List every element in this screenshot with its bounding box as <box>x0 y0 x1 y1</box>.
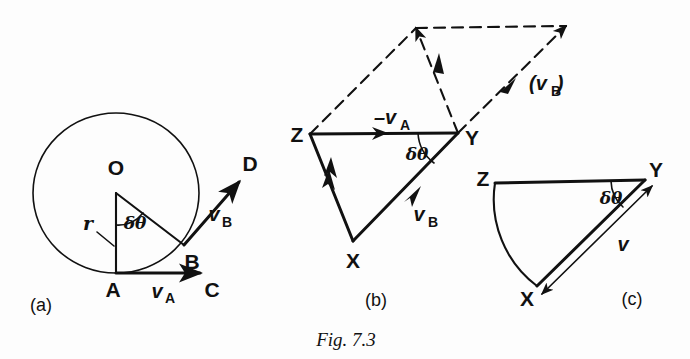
figure-canvas: O A B C D r δθ v A v B (a) <box>0 0 690 359</box>
vector-label-vB-paren-suffix: ) <box>555 72 564 94</box>
panel-label-b: (b) <box>365 290 387 310</box>
dashed-arrow-vB-parenthesised <box>458 26 566 133</box>
triangle-side-ZX <box>310 134 353 241</box>
figure-container: O A B C D r δθ v A v B (a) <box>0 0 690 359</box>
point-label-Z-c: Z <box>477 167 490 190</box>
vector-label-vA-subscript: A <box>165 290 175 306</box>
point-label-X-b: X <box>346 249 360 272</box>
point-label-Y-c: Y <box>649 158 663 181</box>
panel-label-a: (a) <box>30 295 52 315</box>
vector-label-vB-b-subscript: B <box>428 214 438 230</box>
point-label-B: B <box>184 250 199 273</box>
point-label-Z-b: Z <box>291 123 304 146</box>
radius-leader-line <box>97 232 114 246</box>
vector-label-vB-symbol: v <box>208 203 221 225</box>
point-label-A: A <box>105 278 120 301</box>
vector-label-vB-paren-symbol: (v <box>529 72 549 94</box>
radius-label-r: r <box>83 212 95 234</box>
vector-label-vB-b: v B <box>413 203 438 229</box>
figure-caption: Fig. 7.3 <box>315 329 376 350</box>
vector-label-vB-parenthesised: (v B ) <box>529 72 564 98</box>
point-label-C: C <box>204 278 219 301</box>
vector-label-minus-vA-subscript: A <box>400 117 410 133</box>
panel-b: Z X Y δθ –v A v B (v B ) (b) <box>291 26 566 310</box>
panel-a: O A B C D r δθ v A v B (a) <box>30 113 258 315</box>
panel-label-c: (c) <box>622 289 643 309</box>
chord-XY-c <box>537 180 645 286</box>
point-label-X-c: X <box>520 287 534 310</box>
arc-ZX-c <box>494 183 537 286</box>
point-label-Y-b: Y <box>465 126 479 149</box>
point-label-O: O <box>108 156 124 179</box>
vector-label-vA-symbol: v <box>151 280 164 302</box>
panel-c: Z X Y δθ v (c) <box>477 158 663 310</box>
vector-label-minus-vA-symbol: –v <box>374 106 398 128</box>
dashed-arrow-upward <box>416 28 458 133</box>
vector-label-vB-b-symbol: v <box>413 203 426 225</box>
velocity-change-arrow-v <box>542 186 652 294</box>
dashed-diagonal-midarrow <box>500 78 516 94</box>
point-label-D: D <box>242 152 257 175</box>
vector-label-vB-a: v B <box>208 203 232 229</box>
side-ZY-c <box>495 180 645 183</box>
dashed-top-edge <box>416 26 566 28</box>
vector-label-vB-subscript: B <box>222 214 232 230</box>
dashed-upward-midarrow <box>433 53 444 74</box>
vector-label-v-c: v <box>617 233 630 255</box>
vector-label-vA: v A <box>151 280 175 305</box>
vector-label-minus-vA: –v A <box>374 106 410 132</box>
angle-label-delta-theta-a: δθ <box>123 213 147 233</box>
angle-label-delta-theta-b: δθ <box>405 144 429 164</box>
angle-label-delta-theta-c: δθ <box>599 188 623 208</box>
